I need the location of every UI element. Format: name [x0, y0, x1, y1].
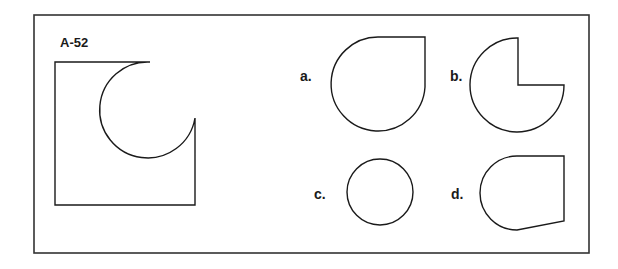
option-a[interactable]: a.	[300, 37, 425, 131]
option-a-shape	[331, 37, 425, 131]
option-b-shape	[470, 38, 564, 132]
option-b-label: b.	[450, 68, 462, 84]
option-d[interactable]: d.	[451, 156, 564, 230]
option-d-shape	[480, 156, 564, 230]
option-c[interactable]: c.	[314, 159, 413, 225]
outer-frame	[34, 15, 589, 253]
puzzle-id-label: A-52	[60, 35, 88, 50]
option-a-label: a.	[300, 68, 312, 84]
main-figure	[55, 62, 195, 205]
option-c-shape	[347, 159, 413, 225]
option-d-label: d.	[451, 186, 463, 202]
option-c-label: c.	[314, 186, 326, 202]
puzzle-canvas: A-52 a. b. c. d.	[0, 0, 618, 269]
option-b[interactable]: b.	[450, 38, 564, 132]
